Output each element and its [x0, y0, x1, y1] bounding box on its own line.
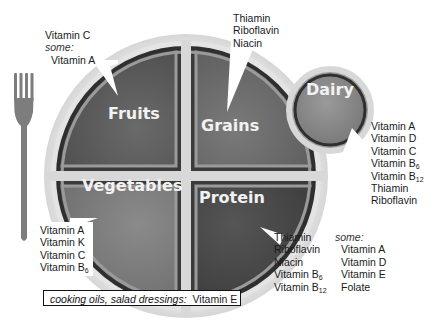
oils-label: cooking oils, salad dressings:	[50, 293, 187, 305]
nutrient: Riboflavin	[371, 194, 424, 206]
nutrient: Vitamin E	[335, 268, 386, 280]
nutrient: Niacin	[233, 37, 279, 49]
nutrient: Riboflavin	[233, 24, 279, 36]
nutrient: Vitamin C	[371, 145, 424, 157]
vegetables-label: Vegetables	[82, 176, 182, 195]
grains-nutrients: Thiamin Riboflavin Niacin	[233, 12, 279, 49]
nutrient: Vitamin B6	[274, 268, 335, 280]
nutrient: Vitamin B12	[371, 170, 424, 182]
grains-label: Grains	[201, 116, 259, 135]
nutrient: Vitamin K	[40, 236, 89, 248]
dairy-label: Dairy	[306, 80, 354, 99]
nutrient: Vitamin D	[335, 256, 386, 268]
fork-icon	[14, 73, 34, 241]
nutrient: Vitamin B6	[371, 157, 424, 169]
vegetables-nutrients: Vitamin A Vitamin K Vitamin C Vitamin B6	[40, 222, 93, 276]
nutrient: Thiamin	[274, 231, 335, 243]
nutrient: Vitamin A	[371, 120, 424, 132]
some-label: some:	[335, 231, 386, 243]
nutrient: Vitamin C	[45, 29, 95, 41]
oils-note: cooking oils, salad dressings: Vitamin E	[43, 290, 241, 306]
fruits-label: Fruits	[108, 104, 160, 123]
nutrient: Vitamin A	[335, 243, 386, 255]
nutrient: Vitamin B6	[40, 261, 89, 273]
nutrient: Thiamin	[233, 12, 279, 24]
protein-nutrients: Thiamin Riboflavin Niacin Vitamin B6 Vit…	[274, 231, 386, 293]
nutrient: Vitamin B12	[274, 281, 335, 293]
nutrient: Thiamin	[371, 182, 424, 194]
some-label: some:	[45, 41, 95, 53]
nutrient: Vitamin D	[371, 132, 424, 144]
fruits-nutrients: Vitamin C some: Vitamin A	[45, 29, 95, 66]
nutrient: Niacin	[274, 256, 335, 268]
protein-label: Protein	[199, 188, 265, 207]
dairy-nutrients: Vitamin A Vitamin D Vitamin C Vitamin B6…	[371, 120, 424, 207]
nutrient: Vitamin A	[40, 224, 89, 236]
nutrient: Riboflavin	[274, 243, 335, 255]
nutrient: Folate	[335, 281, 386, 293]
oils-nutrient: Vitamin E	[193, 293, 238, 305]
nutrient: Vitamin C	[40, 249, 89, 261]
nutrient: Vitamin A	[45, 54, 95, 66]
